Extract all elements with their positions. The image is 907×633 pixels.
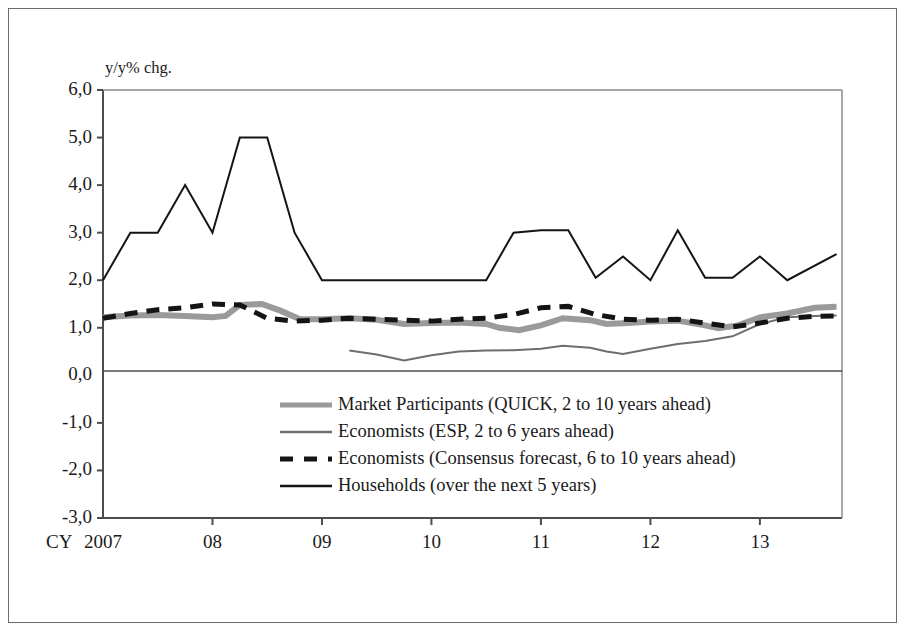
y-tick-label: 0,0 xyxy=(34,363,92,385)
chart-figure: y/y% chg. 6,05,04,03,02,01,00,0-1,0-2,0-… xyxy=(0,0,907,633)
legend-swatch-icon xyxy=(278,452,334,466)
y-tick-label: 6,0 xyxy=(34,78,92,100)
legend-item-economists-consensus[interactable]: Economists (Consensus forecast, 6 to 10 … xyxy=(278,445,748,472)
series-line-households xyxy=(103,138,837,281)
x-tick-label: 08 xyxy=(172,531,252,553)
x-tick-label: 2007 xyxy=(63,531,143,553)
data-series-layer xyxy=(103,138,837,361)
legend-item-economists-esp[interactable]: Economists (ESP, 2 to 6 years ahead) xyxy=(278,418,748,445)
x-tick-label: 09 xyxy=(282,531,362,553)
legend-item-households[interactable]: Households (over the next 5 years) xyxy=(278,472,748,499)
y-tick-label: 2,0 xyxy=(34,268,92,290)
x-tick-marks xyxy=(212,518,759,525)
y-axis-unit-label: y/y% chg. xyxy=(105,58,172,78)
legend-label: Economists (Consensus forecast, 6 to 10 … xyxy=(338,449,736,468)
y-tick-label: -1,0 xyxy=(34,411,92,433)
legend-swatch-icon xyxy=(278,425,334,439)
chart-legend: Market Participants (QUICK, 2 to 10 year… xyxy=(278,391,748,503)
y-tick-label: -3,0 xyxy=(34,506,92,528)
y-tick-label: 5,0 xyxy=(34,126,92,148)
x-axis-prefix-label: CY xyxy=(46,531,72,553)
x-tick-label: 11 xyxy=(501,531,581,553)
legend-swatch-icon xyxy=(278,479,334,493)
legend-label: Households (over the next 5 years) xyxy=(338,476,596,495)
legend-swatch-icon xyxy=(278,398,334,412)
y-tick-label: 4,0 xyxy=(34,173,92,195)
x-tick-label: 13 xyxy=(720,531,800,553)
y-tick-label: -2,0 xyxy=(34,458,92,480)
x-tick-label: 10 xyxy=(391,531,471,553)
legend-item-market-participants[interactable]: Market Participants (QUICK, 2 to 10 year… xyxy=(278,391,748,418)
x-tick-label: 12 xyxy=(610,531,690,553)
y-tick-label: 1,0 xyxy=(34,316,92,338)
legend-label: Economists (ESP, 2 to 6 years ahead) xyxy=(338,422,614,441)
legend-label: Market Participants (QUICK, 2 to 10 year… xyxy=(338,395,711,414)
series-line-market-participants xyxy=(103,304,837,330)
y-tick-label: 3,0 xyxy=(34,221,92,243)
